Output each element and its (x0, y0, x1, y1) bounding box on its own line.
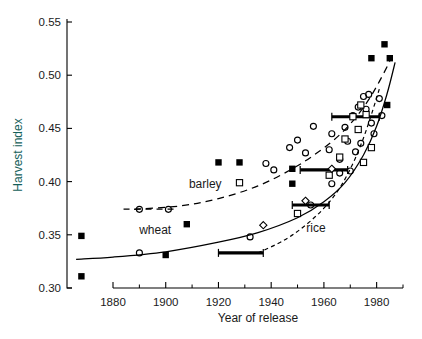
y-axis-title: Harvest index (11, 118, 25, 191)
marker-open-square (360, 159, 366, 165)
y-tick-label: 0.45 (39, 122, 61, 134)
marker-open-circle (329, 181, 335, 187)
y-tick-label: 0.40 (39, 176, 61, 188)
marker-filled-square (215, 159, 221, 165)
marker-open-square (294, 210, 300, 216)
marker-open-circle (326, 147, 332, 153)
y-tick-label: 0.35 (39, 229, 61, 241)
marker-open-circle (271, 167, 277, 173)
marker-open-circle (295, 137, 301, 143)
marker-open-square (326, 172, 332, 178)
x-tick-label: 1960 (311, 296, 337, 308)
marker-open-circle (329, 131, 335, 137)
marker-open-square (368, 145, 374, 151)
marker-open-circle (287, 145, 293, 151)
marker-open-square (342, 136, 348, 142)
chart-figure: 0.300.350.400.450.500.551880190019201940… (0, 0, 422, 339)
y-axis-line (67, 19, 72, 288)
x-axis-title: Year of release (218, 311, 299, 325)
trend-curve-barley (134, 61, 390, 209)
y-tick-label: 0.30 (39, 282, 61, 294)
marker-filled-square (163, 252, 169, 258)
series-label-barley: barley (189, 177, 222, 191)
marker-open-circle (366, 91, 372, 97)
marker-filled-square (289, 181, 295, 187)
marker-open-square (355, 126, 361, 132)
marker-filled-square (384, 102, 390, 108)
marker-open-square (236, 180, 242, 186)
series-label-rice: rice (306, 221, 326, 235)
marker-open-circle (376, 96, 382, 102)
marker-filled-square (78, 273, 84, 279)
marker-open-diamond (260, 222, 267, 229)
marker-open-square (363, 112, 369, 118)
marker-open-square (358, 102, 364, 108)
marker-open-square (350, 114, 356, 120)
x-tick-label: 1920 (206, 296, 232, 308)
marker-filled-square (236, 159, 242, 165)
marker-filled-square (381, 41, 387, 47)
x-tick-label: 1940 (258, 296, 284, 308)
marker-filled-square (78, 233, 84, 239)
x-tick-label: 1900 (153, 296, 179, 308)
marker-filled-square (184, 221, 190, 227)
marker-open-circle (263, 161, 269, 167)
marker-open-circle (303, 150, 309, 156)
marker-open-circle (368, 120, 374, 126)
marker-open-square (337, 154, 343, 160)
marker-filled-square (368, 55, 374, 61)
y-tick-label: 0.55 (39, 16, 61, 28)
marker-open-circle (310, 123, 316, 129)
marker-filled-square (289, 166, 295, 172)
trend-curve-wheat (76, 62, 395, 259)
series-label-wheat: wheat (138, 223, 172, 237)
x-tick-label: 1880 (100, 296, 126, 308)
marker-filled-square (387, 55, 393, 61)
chart-svg: 0.300.350.400.450.500.551880190019201940… (0, 0, 422, 339)
y-tick-label: 0.50 (39, 69, 61, 81)
x-tick-label: 1980 (364, 296, 390, 308)
